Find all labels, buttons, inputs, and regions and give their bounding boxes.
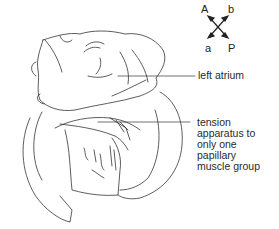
compass-label-p: P: [228, 42, 235, 54]
heart-diagram: A b a P left atrium tension apparatus to…: [0, 0, 279, 229]
label-left-atrium: left atrium: [198, 70, 244, 81]
compass-label-a-lower: a: [205, 42, 211, 54]
heart-illustration: [0, 0, 279, 229]
compass-label-b: b: [228, 3, 234, 15]
label-tension-apparatus: tension apparatus to only one papillary …: [197, 117, 260, 172]
compass-label-a-upper: A: [201, 3, 208, 15]
